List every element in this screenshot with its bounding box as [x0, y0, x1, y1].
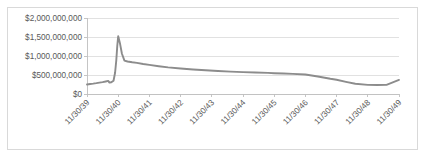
x-axis-tick-label: 11/30/47	[313, 98, 342, 127]
x-axis-tick-label: 11/30/42	[157, 98, 186, 127]
x-axis-tick-label: 11/30/39	[63, 98, 92, 127]
x-axis-tick-label: 11/30/44	[219, 98, 248, 127]
chart-outer-border: $0$500,000,000$1,000,000,000$1,500,000,0…	[7, 7, 418, 150]
x-axis-tick-label: 11/30/43	[188, 98, 217, 127]
y-axis-tick-label: $500,000,000	[32, 71, 83, 80]
y-axis-tick-label: $2,000,000,000	[25, 14, 82, 23]
x-axis-tick-label: 11/30/48	[344, 98, 373, 127]
y-axis-tick-label: $0	[73, 90, 83, 99]
line-chart: $0$500,000,000$1,000,000,000$1,500,000,0…	[8, 8, 417, 149]
x-axis-tick-label: 11/30/40	[94, 98, 123, 127]
y-axis-tick-label: $1,500,000,000	[25, 33, 82, 42]
y-axis-tick-label: $1,000,000,000	[25, 52, 82, 61]
x-axis-tick-label: 11/30/46	[281, 98, 310, 127]
x-axis-tick-label: 11/30/41	[125, 98, 154, 127]
x-axis-tick-label: 11/30/49	[375, 98, 404, 127]
series-line-value	[87, 36, 399, 85]
x-axis-tick-label: 11/30/45	[250, 98, 279, 127]
